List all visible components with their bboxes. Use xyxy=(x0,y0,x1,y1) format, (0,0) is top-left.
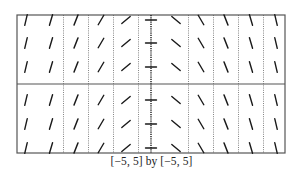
slope-segment xyxy=(25,38,28,49)
slope-segment xyxy=(49,143,52,154)
slope-segment xyxy=(224,119,228,129)
slope-segment xyxy=(198,38,204,47)
slope-segment xyxy=(249,95,252,106)
window-caption: [−5, 5] by [−5, 5] xyxy=(0,155,303,167)
slope-segment xyxy=(98,143,104,152)
slope-segment xyxy=(275,62,278,73)
slope-segment xyxy=(122,63,130,70)
slope-segment xyxy=(122,120,130,127)
slope-segment xyxy=(249,38,252,49)
slope-segment xyxy=(98,15,104,24)
slope-segment xyxy=(172,144,180,151)
slope-segment xyxy=(198,119,204,128)
slope-segment xyxy=(74,143,78,153)
slope-segment xyxy=(49,15,52,26)
slope-segment xyxy=(49,38,52,49)
slope-segment xyxy=(198,95,204,104)
slope-segment xyxy=(25,119,28,130)
slope-segment xyxy=(172,16,180,23)
slope-segment xyxy=(249,62,252,73)
slope-segment xyxy=(74,62,78,72)
slope-segment xyxy=(25,95,28,106)
slope-segment xyxy=(249,119,252,130)
slope-segment xyxy=(98,62,104,71)
slope-segment xyxy=(172,120,180,127)
slope-segment xyxy=(198,143,204,152)
slope-segment xyxy=(49,62,52,73)
slope-segment xyxy=(98,38,104,47)
slope-segment xyxy=(49,119,52,130)
slope-field-chart xyxy=(0,0,303,177)
slope-segment xyxy=(198,62,204,71)
slope-segment xyxy=(74,15,78,25)
slope-segment xyxy=(122,16,130,23)
slope-segment xyxy=(275,95,278,106)
slope-segment xyxy=(122,96,130,103)
slope-segment xyxy=(49,95,52,106)
slope-segment xyxy=(25,15,28,26)
slope-segment xyxy=(198,15,204,24)
slope-segment xyxy=(122,144,130,151)
slope-segment xyxy=(224,15,228,25)
slope-segment xyxy=(224,38,228,48)
slope-segment xyxy=(74,95,78,105)
slope-segment xyxy=(172,96,180,103)
slope-segment xyxy=(275,143,278,154)
slope-segment xyxy=(275,38,278,49)
slope-segment xyxy=(224,62,228,72)
slope-segment xyxy=(172,63,180,70)
slope-segment xyxy=(74,119,78,129)
slope-segment xyxy=(249,15,252,26)
slope-segment xyxy=(249,143,252,154)
slope-segment xyxy=(122,39,130,46)
slope-segment xyxy=(275,119,278,130)
slope-segment xyxy=(25,62,28,73)
slope-segment xyxy=(98,95,104,104)
slope-segment xyxy=(25,143,28,154)
slope-segment xyxy=(172,39,180,46)
slope-segment xyxy=(98,119,104,128)
slope-segment xyxy=(224,95,228,105)
slope-segment xyxy=(275,15,278,26)
slope-segment xyxy=(74,38,78,48)
slope-segment xyxy=(224,143,228,153)
